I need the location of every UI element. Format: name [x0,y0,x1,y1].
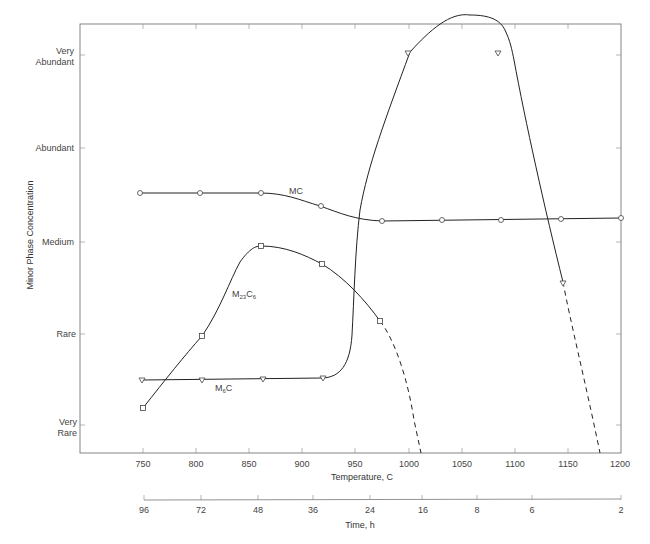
time-tick-72: 72 [196,505,206,515]
x-tick-800: 800 [188,459,203,469]
mc-circle-marker-icon [499,218,504,223]
x-tick-1000: 1000 [399,459,419,469]
m6c-triangle-marker-icon [260,377,266,382]
mc-circle-marker-icon [440,218,445,223]
m23c6-curve [143,246,380,408]
x-tick-950: 950 [347,459,362,469]
time-tick-96: 96 [139,505,149,515]
mc-circle-marker-icon [559,217,564,222]
time-tick-2: 2 [618,505,623,515]
y-tick-rare: Rare [56,329,76,339]
y-tick-very-abundant-line1: Very [56,46,75,56]
m6c-label: M6C [215,383,233,394]
mc-label: MC [289,186,303,196]
x-axis-title: Temperature, C [331,472,394,482]
m6c-triangle-marker-icon [199,378,205,383]
y-ticks [80,55,621,425]
m23c6-extrapolation [380,321,421,453]
y-tick-very-rare-line2: Rare [57,428,77,438]
x-tick-900: 900 [294,459,309,469]
x-tick-750: 750 [135,459,150,469]
x-tick-1050: 1050 [452,459,472,469]
mc-circle-marker-icon [380,219,385,224]
time-tick-16: 16 [418,505,428,515]
phase-concentration-chart: Very Abundant Abundant Medium Rare Very … [0,0,650,544]
mc-circle-marker-icon [619,216,624,221]
m23c6-square-marker-icon [320,262,325,267]
time-axis-title: Time, h [345,520,375,530]
time-tick-6: 6 [529,505,534,515]
m23c6-label: M23C6 [232,289,257,300]
y-axis-title: Minor Phase Concentration [25,180,35,289]
y-tick-labels: Very Abundant Abundant Medium Rare Very … [35,46,77,438]
time-tick-labels: 96 72 48 36 24 16 8 6 2 [139,505,624,515]
y-tick-very-abundant-line2: Abundant [35,57,74,67]
y-tick-abundant: Abundant [35,143,74,153]
x-tick-1100: 1100 [505,459,524,469]
m23c6-markers [141,244,383,411]
mc-curve [140,193,621,221]
m6c-triangle-marker-icon [495,51,501,56]
m6c-triangle-marker-icon [405,51,411,56]
time-tick-36: 36 [308,505,318,515]
plot-frame [80,24,621,453]
mc-circle-marker-icon [138,191,143,196]
x-tick-850: 850 [241,459,256,469]
m23c6-square-marker-icon [378,319,383,324]
time-axis-line [144,499,621,500]
m6c-extrapolation [563,282,600,453]
mc-circle-marker-icon [198,191,203,196]
time-tick-48: 48 [253,505,263,515]
m6c-curve [142,15,563,380]
m23c6-square-marker-icon [200,334,205,339]
m23c6-square-marker-icon [141,406,146,411]
mc-circle-marker-icon [319,204,324,209]
m23c6-square-marker-icon [259,244,264,249]
x-tick-1200: 1200 [610,459,630,469]
x-tick-labels: 750 800 850 900 950 1000 1050 1100 1150 … [135,459,630,469]
x-ticks-bottom [143,448,568,453]
time-tick-24: 24 [365,505,375,515]
m6c-triangle-marker-icon [139,378,145,383]
mc-circle-marker-icon [259,191,264,196]
time-tick-8: 8 [474,505,479,515]
y-tick-very-rare-line1: Very [59,417,78,427]
y-tick-medium: Medium [42,237,74,247]
m6c-triangle-marker-icon [560,281,566,286]
x-tick-1150: 1150 [558,459,577,469]
